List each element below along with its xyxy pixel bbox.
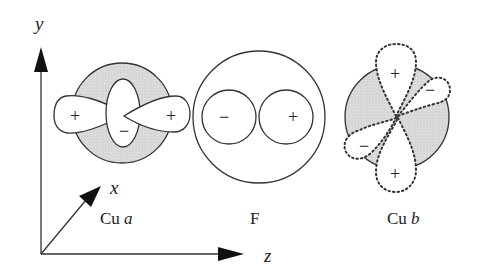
- cu-a-right-sign: +: [166, 106, 176, 126]
- cu-b-upper-right-sign: −: [425, 80, 435, 100]
- y-axis-label: y: [33, 13, 44, 34]
- orbital-diagram: y x z + − + Cu a − + F + − − +: [0, 0, 478, 278]
- cu-a-left-sign: +: [70, 106, 80, 126]
- x-axis-label: x: [109, 177, 119, 198]
- cu-a-label: Cu a: [100, 209, 133, 228]
- f-right-sign: +: [288, 107, 298, 127]
- y-arrow-icon: [34, 47, 48, 72]
- z-arrow-icon: [218, 247, 244, 261]
- x-axis: [41, 200, 86, 254]
- cu-a-center-sign: −: [119, 121, 129, 141]
- f-left-sign: −: [219, 107, 229, 127]
- cu-b-top-sign: +: [390, 64, 400, 84]
- f-orbital: [193, 51, 325, 183]
- f-label: F: [250, 209, 259, 228]
- z-axis-label: z: [263, 245, 272, 266]
- cu-b-bottom-sign: +: [390, 164, 400, 184]
- cu-b-lower-left-sign: −: [359, 136, 369, 156]
- cu-b-label: Cu b: [387, 209, 420, 228]
- f-right-lobe: [259, 90, 313, 144]
